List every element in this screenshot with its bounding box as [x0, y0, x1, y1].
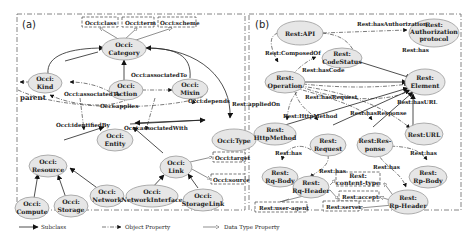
rest-server-box: Rest:server	[323, 201, 361, 211]
rest-codestatus-node: Rest: CodeStatus	[322, 48, 362, 68]
edge-label-hasRequest: Rest:hasRequest	[305, 94, 358, 101]
svg-text:Rp-Body: Rp-Body	[413, 177, 443, 185]
svg-text:Compute: Compute	[16, 208, 47, 216]
svg-text:Occi:: Occi:	[117, 82, 135, 89]
svg-text:Rq-Header: Rq-Header	[292, 187, 330, 195]
svg-text:Occi:: Occi:	[23, 200, 41, 207]
svg-text:HttpMethod: HttpMethod	[254, 134, 297, 142]
svg-text:Rest:: Rest:	[271, 169, 289, 176]
edge-label-hasURL: Rest:hasURL	[397, 99, 437, 105]
rest-rqheader-node: Rest: Rq-Header	[292, 176, 330, 198]
edge-label-depends: Occi:depends	[188, 98, 230, 105]
edge-label-appliedOn: Rest:appliedOn	[232, 101, 280, 108]
svg-text:Rest:: Rest:	[276, 74, 294, 81]
svg-text:Occi:Type: Occi:Type	[217, 137, 250, 145]
edge-label-applies: Occi:applies	[100, 103, 138, 110]
occi-entity-node: Occi: Entity	[97, 129, 133, 151]
ontology-diagram: (a) (b) Occi:class Occi:term Occi:scheme	[0, 0, 470, 246]
svg-text:Rest:API: Rest:API	[285, 30, 315, 37]
edge-label-composedOf: Rest:ComposedOf	[265, 50, 321, 57]
occi-network-node: Occi: Network	[90, 185, 124, 207]
edge-label-httpmethod: Rest:HttpMethod	[283, 113, 338, 120]
svg-text:Link: Link	[168, 167, 184, 174]
legend-subclass: Subclass	[41, 224, 66, 230]
svg-text:protocol: protocol	[420, 35, 450, 43]
svg-text:Rest:: Rest:	[333, 50, 351, 57]
svg-text:Network: Network	[92, 196, 122, 203]
rest-rpheader-node: Rest: Rp-Header	[388, 190, 428, 214]
svg-text:Rest:accept: Rest:accept	[342, 194, 379, 201]
occi-compute-node: Occi: Compute	[15, 197, 49, 219]
edge-label-has-rqheader: Rest:has	[319, 168, 346, 174]
svg-text:Occi:: Occi:	[62, 198, 80, 205]
occi-term-box: Occi:term	[122, 17, 156, 27]
edge-label-parent: parent	[20, 93, 47, 102]
rest-request-node: Rest: Request	[310, 134, 346, 156]
rest-contenttype-box: Rest: content-type	[336, 172, 380, 187]
occi-networkinterface-node: Occi: NetworkInterface	[121, 185, 182, 207]
edge-label-hasCode: Rest:hasCode	[302, 67, 345, 73]
occi-type-node: Occi:Type	[212, 129, 256, 151]
svg-text:Occi:: Occi:	[143, 188, 161, 195]
legend-data-type-property: Data Type Property	[224, 224, 280, 231]
legend: Subclass Object Property Data Type Prope…	[19, 224, 280, 231]
occi-action-node: Occi: Action	[109, 80, 143, 100]
rest-response-node: Rest:Res- ponse	[357, 133, 393, 157]
svg-text:Rest:server: Rest:server	[326, 204, 361, 210]
rest-accept-box: Rest:accept	[339, 191, 379, 201]
edge-label-identifiedBy: Occi:identifiedBy	[56, 122, 111, 129]
occi-resource-node: Occi: Resource	[29, 155, 67, 177]
svg-text:Occi:class: Occi:class	[85, 20, 116, 26]
rest-httpmethod-node: Rest: HttpMethod	[254, 123, 297, 145]
edge-label-associatedWith: Occi:associatedWith	[124, 125, 188, 131]
svg-text:Operation: Operation	[268, 82, 303, 90]
svg-text:Element: Element	[411, 82, 440, 89]
rest-url-node: Rest:URL	[405, 123, 443, 145]
occi-storagelink-node: Occi: StorageLink	[182, 189, 225, 211]
svg-text:Rest:: Rest:	[399, 194, 417, 201]
svg-text:Occi:: Occi:	[181, 81, 199, 88]
rest-element-node: Rest: Element	[405, 69, 445, 95]
edge-label-has-request: Rest:has	[275, 150, 302, 156]
svg-text:Rest:user-agent: Rest:user-agent	[259, 205, 309, 212]
svg-text:content-type: content-type	[336, 179, 380, 187]
svg-text:Category: Category	[108, 49, 139, 57]
rest-rpbody-node: Rest: Rp-Body	[409, 166, 447, 188]
edge-label-associatedTo-left: Occi:associatedTo	[64, 91, 120, 97]
rest-api-node: Rest:API	[277, 21, 323, 45]
svg-text:Rest:: Rest:	[319, 137, 337, 144]
edge-label-hasAuthorization: Rest:hasAuthorization	[357, 21, 427, 27]
svg-text:Occi:: Occi:	[115, 41, 133, 48]
svg-text:Kind: Kind	[37, 83, 54, 90]
svg-text:CodeStatus: CodeStatus	[322, 58, 362, 65]
svg-text:Rest:Res-: Rest:Res-	[359, 137, 392, 144]
svg-text:Rest:: Rest:	[419, 169, 437, 176]
svg-text:Occi:term: Occi:term	[125, 20, 156, 26]
rest-useragent-box: Rest:user-agent	[255, 202, 309, 212]
svg-text:Rest:: Rest:	[416, 74, 434, 81]
svg-text:Rest:: Rest:	[425, 21, 443, 28]
panel-b-label: (b)	[255, 19, 269, 30]
occi-source-box: Occi:source	[211, 174, 250, 184]
svg-text:Occi:: Occi:	[39, 158, 57, 165]
svg-text:Occi:scheme: Occi:scheme	[160, 20, 200, 26]
occi-link-node: Occi: Link	[160, 156, 192, 178]
svg-text:Resource: Resource	[32, 166, 64, 173]
svg-text:Occi:: Occi:	[98, 188, 116, 195]
edge-label-has-rp: Rest:has	[410, 150, 437, 156]
svg-text:Mixin: Mixin	[180, 89, 200, 96]
svg-text:ponse: ponse	[365, 145, 385, 153]
svg-text:StorageLink: StorageLink	[182, 200, 225, 208]
svg-text:Occi:: Occi:	[167, 159, 185, 166]
svg-text:Rp-Header: Rp-Header	[389, 202, 427, 210]
occi-category-node: Occi: Category	[102, 38, 146, 60]
svg-text:Occi:: Occi:	[36, 75, 54, 82]
occi-class-box: Occi:class	[82, 17, 118, 27]
svg-text:Occi:: Occi:	[194, 192, 212, 199]
occi-target-box: Occi:target	[213, 152, 251, 162]
svg-text:Rest:: Rest:	[302, 179, 320, 186]
edge-label-hasResponse: Rest:hasResponse	[350, 110, 407, 117]
legend-object-property: Object Property	[125, 224, 171, 231]
svg-text:Authorization: Authorization	[409, 28, 458, 35]
svg-text:Storage: Storage	[58, 206, 85, 214]
